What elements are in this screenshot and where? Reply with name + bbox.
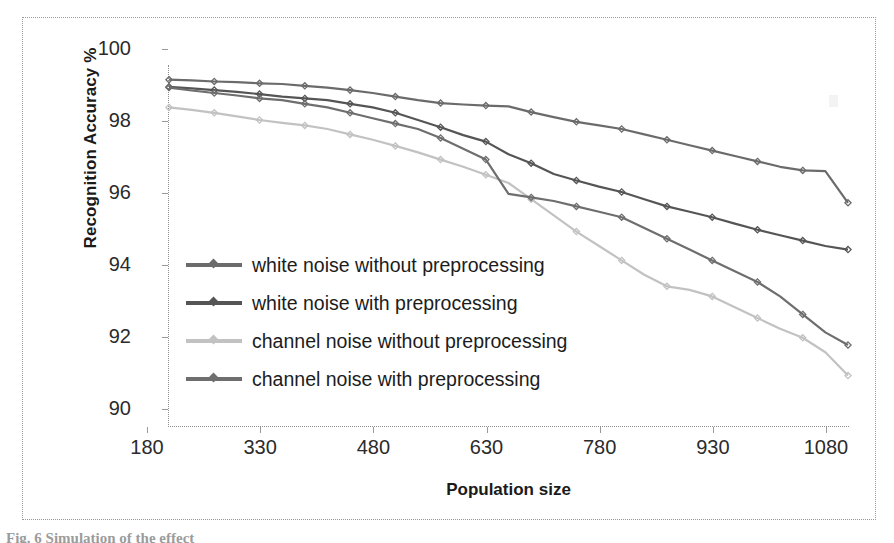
legend-label-1: white noise with preprocessing	[252, 292, 518, 315]
series-line-1	[169, 87, 848, 250]
x-tick-630	[487, 427, 488, 433]
y-tick-96	[162, 193, 168, 194]
x-tick-label-930: 930	[673, 437, 753, 457]
legend-line-swatch-icon	[186, 339, 242, 343]
figure-root: 9092949698100 1803304806307809301080 Rec…	[0, 0, 894, 543]
legend-label-2: channel noise without preprocessing	[252, 330, 567, 353]
y-tick-90	[162, 409, 168, 410]
legend-item-1: white noise with preprocessing	[186, 284, 616, 322]
x-tick-label-180: 180	[107, 437, 187, 457]
legend-item-3: channel noise with preprocessing	[186, 360, 616, 398]
series-1	[166, 84, 851, 253]
legend-line-swatch-icon	[186, 301, 242, 305]
y-tick-label-92: 92	[71, 326, 131, 346]
x-tick-180	[147, 427, 148, 433]
x-tick-label-1080: 1080	[786, 437, 866, 457]
y-tick-label-90: 90	[71, 398, 131, 418]
x-tick-1080	[826, 427, 827, 433]
x-tick-930	[713, 427, 714, 433]
y-tick-98	[162, 121, 168, 122]
x-tick-label-780: 780	[560, 437, 640, 457]
chart-frame: 9092949698100 1803304806307809301080 Rec…	[22, 17, 876, 520]
legend-item-0: white noise without preprocessing	[186, 246, 616, 284]
figure-caption: Fig. 6 Simulation of the effect	[6, 530, 886, 543]
scan-artifact-speck	[829, 95, 838, 107]
x-tick-label-630: 630	[447, 437, 527, 457]
y-tick-label-94: 94	[71, 254, 131, 274]
x-tick-label-330: 330	[220, 437, 300, 457]
x-axis-title: Population size	[169, 480, 848, 500]
y-tick-label-96: 96	[71, 182, 131, 202]
x-axis-line	[168, 426, 849, 427]
x-tick-label-480: 480	[333, 437, 413, 457]
legend-line-swatch-icon	[186, 377, 242, 381]
y-tick-label-100: 100	[71, 38, 131, 58]
y-tick-92	[162, 337, 168, 338]
y-axis-title: Recognition Accuracy %	[81, 18, 101, 278]
legend-item-2: channel noise without preprocessing	[186, 322, 616, 360]
legend-label-3: channel noise with preprocessing	[252, 368, 540, 391]
y-tick-100	[162, 49, 168, 50]
x-tick-780	[600, 427, 601, 433]
y-tick-94	[162, 265, 168, 266]
chart-legend: white noise without preprocessingwhite n…	[186, 246, 616, 398]
x-tick-480	[373, 427, 374, 433]
legend-line-swatch-icon	[186, 263, 242, 267]
y-tick-label-98: 98	[71, 110, 131, 130]
legend-label-0: white noise without preprocessing	[252, 254, 545, 277]
x-tick-330	[260, 427, 261, 433]
